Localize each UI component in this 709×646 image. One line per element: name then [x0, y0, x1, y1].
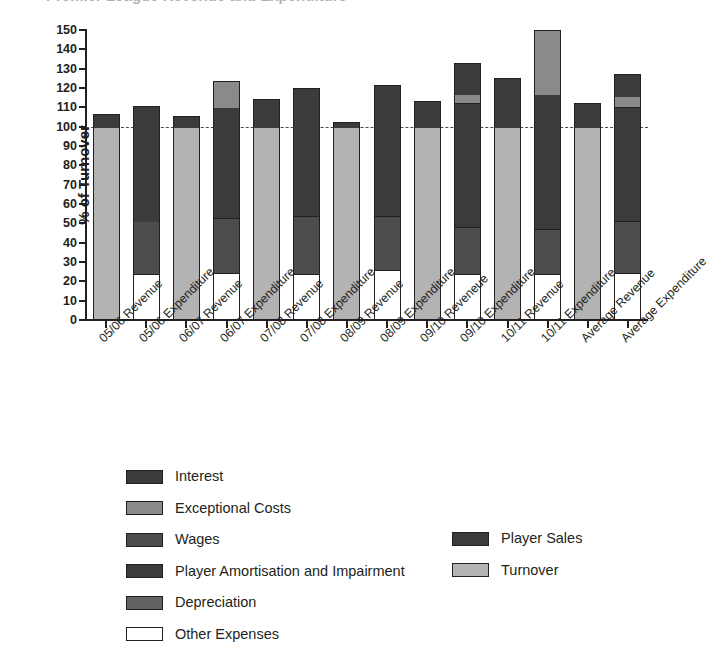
bar: [293, 88, 320, 320]
bar-segment-player_amortisation: [375, 123, 400, 217]
y-tick-mark: [79, 87, 86, 89]
plot-area: % of Turnover 01020304050607080901001101…: [86, 30, 648, 320]
bar-segment-other_expenses: [615, 274, 640, 320]
y-tick-label: 130: [56, 62, 77, 75]
bar-segment-wages: [455, 228, 480, 274]
y-tick-mark: [79, 300, 86, 302]
x-tick-mark: [105, 321, 107, 328]
bar-segment-interest: [375, 86, 400, 123]
bar-segment-turnover: [415, 128, 440, 320]
y-tick-label: 70: [63, 178, 77, 191]
legend-item-wages[interactable]: Wages: [126, 529, 405, 550]
y-tick-label: 60: [63, 198, 77, 211]
y-tick-mark: [79, 203, 86, 205]
y-tick-mark: [79, 242, 86, 244]
bar-segment-turnover: [575, 128, 600, 320]
legend-label-other_expenses: Other Expenses: [175, 627, 279, 642]
y-tick-mark: [79, 145, 86, 147]
legend-label-exceptional_costs: Exceptional Costs: [175, 501, 291, 516]
x-tick-mark: [426, 321, 428, 328]
y-tick-label: 80: [63, 159, 77, 172]
bar-segment-other_expenses: [535, 275, 560, 320]
bar: [333, 122, 360, 320]
bar-segment-player_amortisation: [535, 95, 560, 230]
legend-item-exceptional_costs[interactable]: Exceptional Costs: [126, 498, 405, 519]
y-tick-label: 50: [63, 217, 77, 230]
legend-item-player_amortisation[interactable]: Player Amortisation and Impairment: [126, 561, 405, 582]
bar: [133, 106, 160, 320]
x-tick-mark: [466, 321, 468, 328]
bar-segment-player_amortisation: [134, 107, 159, 222]
legend-swatch-wages: [126, 533, 163, 547]
bar: [173, 116, 200, 320]
y-tick-label: 90: [63, 140, 77, 153]
y-tick-label: 110: [57, 101, 77, 114]
y-tick-label: 140: [56, 43, 77, 56]
legend-label-wages: Wages: [175, 532, 220, 547]
legend-swatch-player_amortisation: [126, 564, 163, 578]
y-tick-label: 0: [70, 314, 77, 327]
bar-segment-wages: [375, 217, 400, 271]
x-tick-mark: [587, 321, 589, 328]
legend-item-depreciation[interactable]: Depreciation: [126, 592, 405, 613]
bar-segment-interest: [615, 75, 640, 96]
legend-item-other_expenses[interactable]: Other Expenses: [126, 624, 405, 645]
legend-item-interest[interactable]: Interest: [126, 466, 405, 487]
bar-segment-wages: [535, 230, 560, 274]
y-tick-mark: [79, 261, 86, 263]
x-tick-mark: [226, 321, 228, 328]
bar-segment-player_amortisation: [294, 108, 319, 216]
legend-item-turnover[interactable]: Turnover: [452, 560, 582, 581]
bar-segment-exceptional_costs: [615, 97, 640, 109]
x-tick-mark: [346, 321, 348, 328]
bar-segment-exceptional_costs: [455, 95, 480, 105]
legend-swatch-turnover: [452, 563, 489, 577]
bar-segment-wages: [214, 219, 239, 273]
bar-segment-other_expenses: [134, 275, 159, 320]
bar-segment-exceptional_costs: [535, 31, 560, 95]
legend-label-interest: Interest: [175, 469, 223, 484]
y-tick-mark: [79, 68, 86, 70]
bar: [574, 103, 601, 320]
y-tick-mark: [79, 319, 86, 321]
x-tick-mark: [547, 321, 549, 328]
x-tick-mark: [507, 321, 509, 328]
bar-segment-player_sales: [495, 79, 520, 127]
reference-line: [86, 127, 648, 128]
bar: [414, 101, 441, 320]
legend-label-player_sales: Player Sales: [501, 531, 582, 546]
bar: [93, 114, 120, 320]
y-tick-mark: [79, 48, 86, 50]
y-tick-mark: [79, 222, 86, 224]
legend-label-player_amortisation: Player Amortisation and Impairment: [175, 564, 405, 579]
bar-segment-player_amortisation: [455, 104, 480, 228]
bar-segment-player_sales: [575, 104, 600, 127]
y-tick-mark: [79, 280, 86, 282]
y-tick-label: 30: [63, 256, 77, 269]
bar-segment-player_sales: [174, 117, 199, 128]
legend-item-player_sales[interactable]: Player Sales: [452, 528, 582, 549]
y-tick-label: 120: [56, 82, 77, 95]
y-tick-label: 150: [56, 24, 77, 37]
y-tick-mark: [79, 164, 86, 166]
legend-column-right: Player SalesTurnover: [452, 528, 582, 591]
y-tick-mark: [79, 106, 86, 108]
bar: [614, 74, 641, 320]
y-tick-label: 100: [56, 120, 77, 133]
chart-title-text: Premier League Revenue and Expenditure: [46, 0, 347, 4]
legend-swatch-interest: [126, 470, 163, 484]
x-tick-mark: [627, 321, 629, 328]
y-tick-mark: [79, 126, 86, 128]
bar-segment-turnover: [94, 128, 119, 320]
bar: [534, 30, 561, 320]
bar-segment-turnover: [174, 128, 199, 320]
bar: [454, 63, 481, 320]
legend-swatch-depreciation: [126, 596, 163, 610]
legend-column-left: InterestExceptional CostsWagesPlayer Amo…: [126, 466, 405, 646]
chart-title-clipped: Premier League Revenue and Expenditure: [0, 0, 655, 9]
y-tick-label: 40: [63, 236, 77, 249]
bar-segment-exceptional_costs: [214, 82, 239, 108]
bar-segment-interest: [455, 64, 480, 95]
bar: [213, 81, 240, 320]
legend-swatch-other_expenses: [126, 627, 163, 641]
